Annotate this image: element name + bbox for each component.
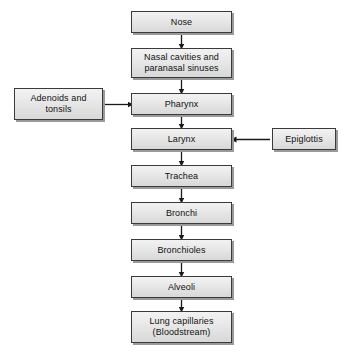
node-lung-capillaries[interactable]: Lung capillaries (Bloodstream) [131, 311, 232, 343]
node-alveoli[interactable]: Alveoli [131, 276, 232, 298]
node-nasal-cavities[interactable]: Nasal cavities and paranasal sinuses [131, 48, 232, 78]
node-nose[interactable]: Nose [131, 11, 232, 33]
node-larynx[interactable]: Larynx [131, 128, 232, 150]
node-trachea[interactable]: Trachea [131, 165, 232, 187]
node-adenoids-and-tonsils[interactable]: Adenoids and tonsils [14, 88, 103, 120]
node-epiglottis[interactable]: Epiglottis [272, 128, 336, 150]
node-pharynx[interactable]: Pharynx [131, 93, 232, 115]
node-bronchi[interactable]: Bronchi [131, 202, 232, 224]
flowchart-diagram: Nose Nasal cavities and paranasal sinuse… [0, 0, 344, 352]
node-bronchioles[interactable]: Bronchioles [131, 239, 232, 261]
